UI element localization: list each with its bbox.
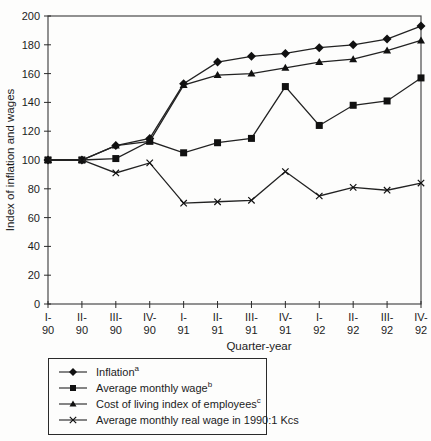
x-tick-label-year: 90 <box>144 324 156 336</box>
square-marker <box>384 97 391 104</box>
y-tick-label: 40 <box>28 240 40 252</box>
legend-label-cost-of-living: Cost of living index of employeesc <box>96 398 261 410</box>
series-line <box>48 160 421 203</box>
x-tick-label-year: 92 <box>313 324 325 336</box>
x-tick-label-year: 91 <box>245 324 257 336</box>
x-tick-label-quarter: IV- <box>414 311 428 323</box>
square-marker <box>112 155 119 162</box>
x-tick-label-year: 92 <box>381 324 393 336</box>
square-marker <box>418 74 425 81</box>
legend-label-real-wage: Average monthly real wage in 1990:1 Kcs <box>96 414 299 426</box>
diamond-marker <box>281 49 290 58</box>
series-average-monthly-real-wage-in-1990-1-kcs <box>45 157 424 207</box>
x-tick-label-quarter: III- <box>381 311 394 323</box>
legend-item-inflation: Inflationa <box>58 364 262 380</box>
x-tick-label-quarter: II- <box>213 311 223 323</box>
x-marker <box>282 168 288 174</box>
chart-figure: 020406080100120140160180200I-90II-90III-… <box>0 0 431 441</box>
square-marker <box>180 149 187 156</box>
y-tick-label: 140 <box>22 96 40 108</box>
square-marker <box>316 122 323 129</box>
x-tick-label-quarter: I- <box>316 311 323 323</box>
y-tick-label: 80 <box>28 183 40 195</box>
diamond-marker <box>247 52 256 61</box>
x-tick-label-year: 91 <box>178 324 190 336</box>
triangle-marker <box>417 36 425 43</box>
x-tick-label-year: 91 <box>279 324 291 336</box>
x-tick-label-quarter: III- <box>245 311 258 323</box>
y-tick-label: 0 <box>34 298 40 310</box>
square-marker <box>282 83 289 90</box>
y-tick-label: 100 <box>22 154 40 166</box>
chart-svg: 020406080100120140160180200I-90II-90III-… <box>0 0 431 356</box>
legend-label-inflation: Inflationa <box>96 366 139 378</box>
legend-label-average-monthly-wage: Average monthly wageb <box>96 382 212 394</box>
plot-area: 020406080100120140160180200I-90II-90III-… <box>22 10 428 336</box>
y-tick-label: 180 <box>22 39 40 51</box>
legend-item-real-wage: Average monthly real wage in 1990:1 Kcs <box>58 412 262 428</box>
x-marker-icon <box>58 414 88 426</box>
square-marker-icon <box>58 382 88 394</box>
triangle-marker-icon <box>58 398 88 410</box>
x-tick-label-year: 90 <box>110 324 122 336</box>
x-tick-label-year: 92 <box>347 324 359 336</box>
diamond-marker <box>69 368 77 376</box>
diamond-marker <box>417 22 426 31</box>
series-average-monthly-wage <box>45 74 425 163</box>
x-tick-label-quarter: II- <box>348 311 358 323</box>
series-line <box>48 78 421 160</box>
x-tick-label-year: 91 <box>211 324 223 336</box>
diamond-marker <box>383 35 392 44</box>
diamond-marker <box>349 40 358 49</box>
y-tick-label: 160 <box>22 68 40 80</box>
legend: Inflationa Average monthly wageb Cost of… <box>48 358 267 435</box>
diamond-marker <box>315 43 324 52</box>
y-tick-label: 200 <box>22 10 40 22</box>
x-tick-label-quarter: IV- <box>279 311 293 323</box>
x-tick-label-year: 90 <box>76 324 88 336</box>
y-axis-title: Index of inflation and wages <box>4 88 16 231</box>
y-tick-label: 20 <box>28 269 40 281</box>
y-tick-label: 120 <box>22 125 40 137</box>
x-tick-label-quarter: III- <box>109 311 122 323</box>
square-marker <box>70 385 76 391</box>
series-inflation <box>44 22 426 165</box>
x-tick-label-year: 92 <box>415 324 427 336</box>
series-line <box>48 40 421 160</box>
diamond-marker-icon <box>58 366 88 378</box>
x-tick-label-quarter: II- <box>77 311 87 323</box>
square-marker <box>248 135 255 142</box>
legend-item-average-monthly-wage: Average monthly wageb <box>58 380 262 396</box>
square-marker <box>214 139 221 146</box>
y-tick-label: 60 <box>28 212 40 224</box>
x-tick-label-year: 90 <box>42 324 54 336</box>
x-tick-label-quarter: I- <box>45 311 52 323</box>
series-cost-of-living-index-of-employees <box>44 36 425 163</box>
legend-item-cost-of-living: Cost of living index of employeesc <box>58 396 262 412</box>
square-marker <box>350 102 357 109</box>
diamond-marker <box>213 58 222 67</box>
x-tick-label-quarter: IV- <box>143 311 157 323</box>
x-axis-title: Quarter-year <box>226 340 291 352</box>
x-tick-label-quarter: I- <box>180 311 187 323</box>
